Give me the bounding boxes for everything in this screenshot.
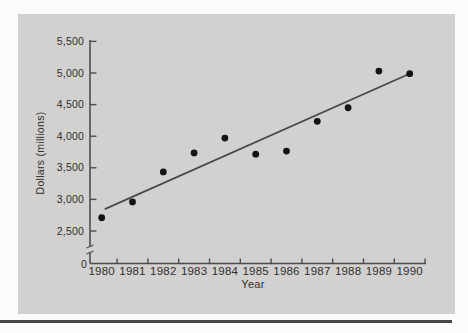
x-tick-label: 1985 (243, 265, 269, 277)
x-tick-label: 1983 (181, 265, 207, 277)
scatter-chart: 5,5005,0004,5004,0003,5003,0002,50001980… (18, 14, 455, 314)
bottom-rule (0, 320, 452, 323)
y-tick-label: 5,000 (57, 67, 84, 79)
y-tick-label: 3,000 (57, 193, 84, 205)
x-tick-label: 1987 (304, 265, 330, 277)
y-axis-title: Dollars (millions) (34, 112, 46, 195)
data-point (191, 150, 198, 157)
x-tick-label: 1986 (273, 265, 299, 277)
y-tick-label: 4,500 (57, 98, 84, 110)
x-tick-label: 1982 (150, 265, 176, 277)
x-tick-label: 1980 (89, 265, 115, 277)
y-tick-label: 3,500 (57, 161, 84, 173)
x-tick-label: 1981 (119, 265, 145, 277)
data-point (222, 135, 229, 142)
data-point (314, 118, 321, 125)
trend-line (105, 73, 411, 209)
data-point (98, 214, 105, 221)
x-tick-label: 1989 (366, 265, 392, 277)
data-point (129, 199, 136, 206)
data-point (406, 70, 413, 77)
y-tick-label: 2,500 (57, 225, 84, 237)
x-tick-label: 1984 (212, 265, 239, 277)
data-point (283, 148, 290, 155)
page: { "figure": { "panel_background": "#d2d1… (0, 0, 468, 333)
data-point (376, 68, 383, 75)
data-point (160, 169, 167, 176)
figure-panel: 5,5005,0004,5004,0003,5003,0002,50001980… (18, 14, 455, 314)
y-tick-label: 4,000 (57, 130, 84, 142)
y-zero-label: 0 (81, 258, 87, 270)
x-tick-label: 1988 (335, 265, 361, 277)
data-point (345, 104, 352, 111)
x-tick-label: 1990 (397, 265, 423, 277)
data-point (252, 151, 259, 158)
y-tick-label: 5,500 (57, 35, 84, 47)
x-axis-title: Year (241, 278, 264, 290)
